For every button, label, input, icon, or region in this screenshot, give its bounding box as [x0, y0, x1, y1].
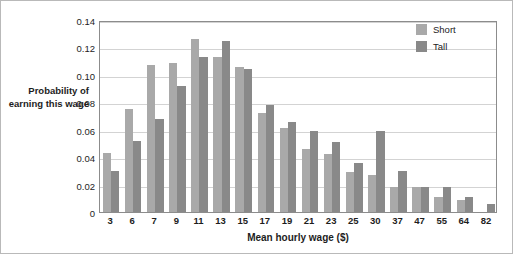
bar-tall-17 [266, 105, 274, 212]
bar-short-30 [368, 175, 376, 212]
y-tick-label: 0.04 [61, 153, 95, 164]
bar-short-3 [103, 153, 111, 212]
bar-group [233, 22, 255, 212]
bar-short-9 [169, 63, 177, 212]
x-tick-label: 21 [304, 215, 315, 226]
x-tick-label: 15 [237, 215, 248, 226]
bar-group [144, 22, 166, 212]
bar-short-64 [457, 200, 465, 212]
bar-short-47 [412, 187, 420, 212]
x-tick-label: 23 [326, 215, 337, 226]
bar-group [277, 22, 299, 212]
bar-tall-47 [421, 187, 429, 212]
x-axis-tick-labels: 36791113151719212325303747556482 [99, 215, 497, 229]
bar-tall-30 [376, 131, 384, 212]
bar-tall-23 [332, 142, 340, 212]
bar-short-15 [235, 67, 243, 212]
bar-tall-9 [177, 86, 185, 212]
bar-tall-25 [354, 163, 362, 212]
y-tick-label: 0.14 [61, 16, 95, 27]
x-tick-label: 47 [414, 215, 425, 226]
y-tick-label: 0.12 [61, 43, 95, 54]
bar-group [255, 22, 277, 212]
bar-tall-7 [155, 119, 163, 212]
x-tick-label: 7 [152, 215, 157, 226]
bar-group [122, 22, 144, 212]
bar-short-17 [258, 113, 266, 212]
bar-group [343, 22, 365, 212]
x-tick-label: 30 [370, 215, 381, 226]
x-tick-label: 19 [282, 215, 293, 226]
y-axis-tick-labels: 00.020.040.060.080.100.120.14 [59, 21, 95, 213]
bar-group [100, 22, 122, 212]
bar-tall-21 [310, 131, 318, 212]
x-tick-label: 3 [107, 215, 112, 226]
bar-group [299, 22, 321, 212]
bar-short-25 [346, 172, 354, 212]
bar-short-6 [125, 109, 133, 212]
legend-item-tall: Tall [416, 41, 456, 52]
chart-figure: Probability of earning this wage 00.020.… [0, 0, 513, 254]
bar-tall-15 [244, 69, 252, 212]
legend-swatch-icon [416, 41, 427, 52]
x-tick-label: 37 [392, 215, 403, 226]
bar-short-7 [147, 65, 155, 212]
bar-tall-64 [465, 197, 473, 212]
bar-tall-19 [288, 122, 296, 213]
bar-group [476, 22, 498, 212]
y-tick-label: 0 [61, 208, 95, 219]
bar-short-13 [213, 57, 221, 212]
bar-tall-37 [398, 171, 406, 212]
bar-short-55 [434, 197, 442, 212]
bar-group [365, 22, 387, 212]
bar-group [188, 22, 210, 212]
bar-tall-11 [199, 57, 207, 212]
x-tick-label: 55 [436, 215, 447, 226]
y-tick-label: 0.06 [61, 125, 95, 136]
bar-tall-13 [222, 41, 230, 212]
bar-group [321, 22, 343, 212]
bar-group [454, 22, 476, 212]
legend-label: Tall [433, 41, 447, 52]
legend-swatch-icon [416, 24, 427, 35]
x-axis-title: Mean hourly wage ($) [99, 232, 497, 243]
bar-tall-6 [133, 141, 141, 212]
legend-label: Short [433, 24, 456, 35]
bar-group [211, 22, 233, 212]
bar-short-11 [191, 39, 199, 212]
chart-legend: ShortTall [416, 24, 456, 52]
y-tick-label: 0.10 [61, 70, 95, 81]
legend-item-short: Short [416, 24, 456, 35]
x-tick-label: 25 [348, 215, 359, 226]
bar-tall-3 [111, 171, 119, 212]
x-tick-label: 6 [130, 215, 135, 226]
bar-tall-55 [443, 187, 451, 212]
bar-tall-82 [487, 204, 495, 212]
x-tick-label: 17 [260, 215, 271, 226]
bar-group [387, 22, 409, 212]
x-tick-label: 11 [193, 215, 203, 226]
bar-group [166, 22, 188, 212]
x-tick-label: 13 [215, 215, 226, 226]
bar-short-23 [324, 154, 332, 212]
x-tick-label: 9 [174, 215, 179, 226]
bar-short-21 [302, 149, 310, 212]
x-tick-label: 64 [459, 215, 470, 226]
bar-short-19 [280, 128, 288, 212]
x-tick-label: 82 [481, 215, 492, 226]
y-tick-label: 0.08 [61, 98, 95, 109]
y-tick-label: 0.02 [61, 180, 95, 191]
bar-short-37 [390, 187, 398, 212]
